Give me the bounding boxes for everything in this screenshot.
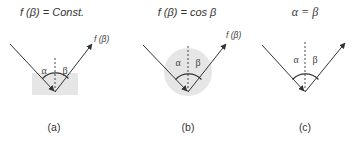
reflected-function-label: f (β) [226, 30, 241, 40]
panel-b: f (β) = cos β α β f (β) (b) [143, 6, 241, 133]
panel-a: f (β) = Const. α β f (β) (a) [10, 6, 109, 133]
beta-label: β [195, 57, 200, 68]
beta-label: β [312, 54, 317, 65]
alpha-label: α [293, 54, 299, 65]
panel-b-caption: (b) [182, 121, 195, 133]
panel-c-title: α = β [292, 5, 318, 19]
reflected-function-label: f (β) [94, 34, 109, 44]
panel-c: α = β α β (c) [262, 5, 345, 133]
alpha-label: α [41, 65, 47, 76]
beta-label: β [62, 65, 67, 76]
angle-arc [293, 74, 319, 80]
panel-c-caption: (c) [299, 121, 311, 133]
reflection-diagram: f (β) = Const. α β f (β) (a) f (β) = cos… [0, 0, 355, 147]
panel-a-title: f (β) = Const. [20, 6, 84, 18]
reflected-ray [305, 43, 345, 92]
panel-b-title: f (β) = cos β [158, 6, 217, 18]
alpha-label: α [175, 57, 181, 68]
panel-a-caption: (a) [48, 121, 61, 133]
incident-ray [262, 45, 304, 91]
